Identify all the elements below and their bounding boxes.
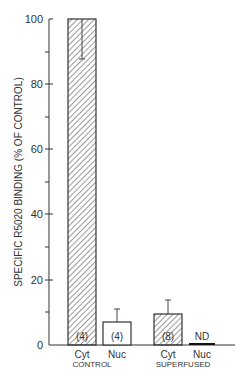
bar-superfused-cyt: (8) <box>154 300 182 345</box>
n-label: (8) <box>162 331 174 342</box>
tick-100: 100 <box>25 13 43 25</box>
group-label-superfused: SUPERFUSED <box>156 360 211 369</box>
n-label: (4) <box>111 331 123 342</box>
nd-label: ND <box>195 331 209 342</box>
bar-chart: 100 80 60 40 20 0 SPECIFIC R5020 BINDING… <box>0 0 247 379</box>
x-label-nuc-control: Nuc <box>108 349 126 360</box>
group-label-control: CONTROL <box>72 360 112 369</box>
tick-0: 0 <box>37 339 43 351</box>
y-axis: 100 80 60 40 20 0 <box>25 13 53 351</box>
y-axis-label: SPECIFIC R5020 BINDING (% OF CONTROL) <box>13 77 24 286</box>
bar-control-nuc: (4) <box>103 309 131 345</box>
bar-control-cyt: (4) <box>68 19 96 345</box>
tick-40: 40 <box>31 208 43 220</box>
x-label-nuc-superfused: Nuc <box>193 349 211 360</box>
n-label: (4) <box>76 331 88 342</box>
x-label-cyt-control: Cyt <box>75 349 90 360</box>
tick-20: 20 <box>31 274 43 286</box>
bar-superfused-nuc: ND <box>189 331 215 344</box>
tick-60: 60 <box>31 143 43 155</box>
x-label-cyt-superfused: Cyt <box>161 349 176 360</box>
tick-80: 80 <box>31 78 43 90</box>
